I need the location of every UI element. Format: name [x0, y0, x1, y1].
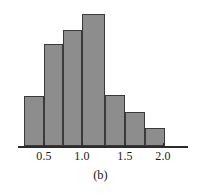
x-axis-tick — [125, 143, 126, 146]
histogram-bar — [82, 14, 105, 146]
x-axis-tick — [82, 143, 83, 146]
histogram-bar — [125, 112, 145, 146]
histogram-bar — [44, 44, 63, 146]
x-axis-tick-label: 0.5 — [29, 150, 59, 163]
histogram-bar — [145, 128, 165, 146]
figure-caption: (b) — [0, 168, 201, 183]
plot-area: 0.5 1.0 1.5 2.0 — [0, 0, 201, 160]
x-axis-tick-label: 1.0 — [67, 150, 97, 163]
x-axis-tick-label: 1.5 — [110, 150, 140, 163]
x-axis-tick-label: 2.0 — [148, 150, 178, 163]
x-axis-tick — [163, 143, 164, 146]
histogram-bar — [24, 96, 44, 146]
histogram-figure: 0.5 1.0 1.5 2.0 (b) — [0, 0, 201, 194]
x-axis-tick — [44, 143, 45, 146]
histogram-bar — [105, 95, 125, 146]
x-axis-line — [18, 146, 188, 148]
histogram-bar — [63, 30, 82, 146]
